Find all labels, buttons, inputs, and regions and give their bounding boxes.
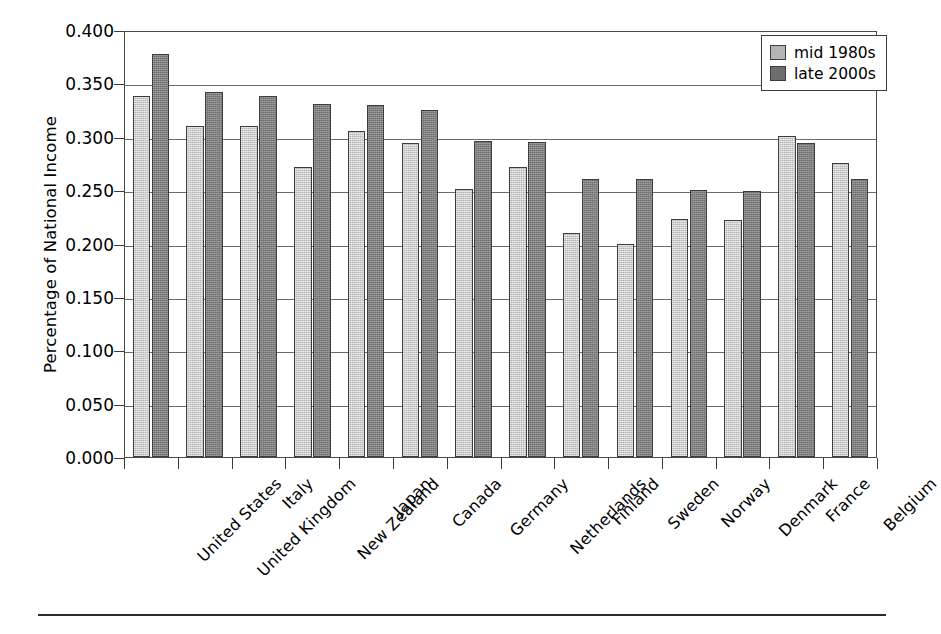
bar <box>474 141 492 457</box>
x-axis-tick-mark <box>501 458 502 469</box>
x-axis-tick-mark <box>662 458 663 469</box>
legend-item: late 2000s <box>770 63 876 84</box>
bar <box>778 136 796 457</box>
y-axis-tick-mark <box>114 405 124 406</box>
x-axis-tick-mark <box>769 458 770 469</box>
bar <box>563 233 581 457</box>
y-axis-tick-mark <box>114 298 124 299</box>
bar <box>636 179 654 457</box>
dark-gray-swatch <box>770 66 786 81</box>
bar <box>259 96 277 457</box>
bar <box>528 142 546 457</box>
bar <box>724 220 742 457</box>
bar <box>743 191 761 457</box>
y-axis-tick-label: 0.050 <box>0 395 114 415</box>
x-axis-category-label: Norway <box>717 474 774 531</box>
y-axis-tick-label: 0.000 <box>0 448 114 468</box>
x-axis-tick-mark <box>393 458 394 469</box>
y-axis-tick-mark <box>114 31 124 32</box>
bottom-divider-rule <box>38 614 886 616</box>
bar <box>348 131 366 457</box>
bar <box>152 54 170 458</box>
x-axis-tick-mark <box>608 458 609 469</box>
bar <box>582 179 600 457</box>
x-axis-tick-mark <box>339 458 340 469</box>
bar <box>671 219 689 457</box>
x-axis-tick-mark <box>232 458 233 469</box>
y-axis-tick-label: 0.250 <box>0 181 114 201</box>
y-axis-tick-mark <box>114 191 124 192</box>
bar <box>294 167 312 457</box>
y-axis-tick-mark <box>114 84 124 85</box>
x-axis-tick-mark <box>285 458 286 469</box>
light-gray-swatch <box>770 45 786 60</box>
x-axis-category-labels: United StatesUnited KingdomItalyNew Zeal… <box>124 470 877 600</box>
y-axis-tick-label: 0.350 <box>0 74 114 94</box>
bar <box>133 96 151 457</box>
y-axis-tick-label: 0.100 <box>0 341 114 361</box>
bar <box>402 143 420 457</box>
y-axis-tick-mark <box>114 245 124 246</box>
x-axis-tick-mark <box>178 458 179 469</box>
bar <box>313 104 331 457</box>
bar <box>455 189 473 457</box>
x-axis-tick-mark <box>124 458 125 469</box>
bar <box>851 179 869 457</box>
x-axis-tick-mark <box>823 458 824 469</box>
x-axis-category-label: Germany <box>506 474 572 540</box>
legend-item-label: late 2000s <box>794 65 876 83</box>
x-axis-category-label: Canada <box>448 474 505 531</box>
x-axis-ticks <box>124 458 877 470</box>
legend-item: mid 1980s <box>770 42 876 63</box>
bar <box>617 244 635 458</box>
y-axis-tick-label: 0.300 <box>0 128 114 148</box>
plot-area <box>124 31 877 458</box>
x-axis-tick-mark <box>554 458 555 469</box>
legend-item-label: mid 1980s <box>794 44 876 62</box>
y-axis-tick-mark <box>114 351 124 352</box>
x-axis-tick-mark <box>447 458 448 469</box>
y-axis-tick-mark <box>114 458 124 459</box>
bar <box>240 126 258 457</box>
legend: mid 1980s late 2000s <box>761 35 887 91</box>
x-axis-category-label: Sweden <box>664 474 723 533</box>
bar <box>690 190 708 457</box>
bar <box>797 143 815 457</box>
x-axis-category-label: Belgium <box>880 474 941 535</box>
bar <box>509 167 527 457</box>
bar <box>367 105 385 457</box>
y-axis-tick-label: 0.150 <box>0 288 114 308</box>
bar <box>832 163 850 457</box>
bar-series-container <box>125 32 876 457</box>
x-axis-tick-mark <box>877 458 878 469</box>
y-axis-tick-mark <box>114 138 124 139</box>
bar <box>421 110 439 457</box>
bar <box>186 126 204 457</box>
x-axis-tick-mark <box>716 458 717 469</box>
y-axis-tick-label: 0.400 <box>0 21 114 41</box>
y-axis-tick-label: 0.200 <box>0 235 114 255</box>
bar <box>205 92 223 457</box>
